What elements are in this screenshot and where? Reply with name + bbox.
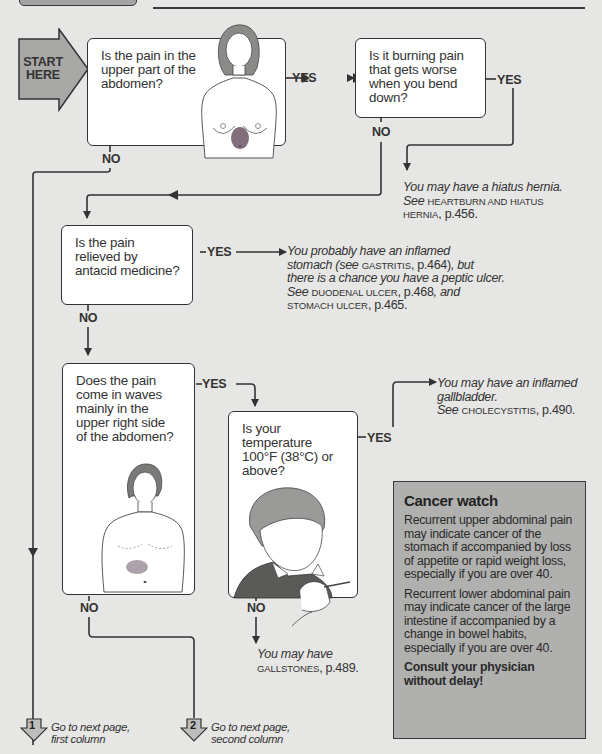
woman-figure-icon [195, 20, 285, 160]
continuation-1-text[interactable]: Go to next page, first column [51, 721, 130, 745]
cancer-watch-warning: Consult your physician without delay! [404, 661, 577, 688]
cancer-watch-para-upper: Recurrent upper abdominal pain may indic… [404, 514, 577, 582]
q3-no-label: NO [79, 311, 97, 325]
q1-no-label: NO [102, 152, 120, 166]
result-gallstones: You may have GALLSTONES, p.489. [257, 648, 377, 675]
q4-yes-label: YES [202, 377, 226, 391]
result-hiatus-hernia: You may have a hiatus hernia. See HEARTB… [403, 181, 602, 222]
question-antacid: Is the pain relieved by antacid medicine… [61, 225, 193, 305]
result-inflamed-gallbladder: You may have an inflamed gallbladder. Se… [437, 377, 602, 418]
q3-yes-label: YES [207, 245, 231, 259]
q2-yes-label: YES [497, 73, 521, 87]
down-arrowhead [28, 548, 38, 557]
q1-yes-label: YES [292, 71, 316, 85]
cancer-watch-box: Cancer watch Recurrent upper abdominal p… [393, 481, 586, 739]
continuation-2-text[interactable]: Go to next page, second column [211, 721, 290, 745]
q5-no-label: NO [247, 601, 265, 615]
start-here-label: START HERE [18, 56, 68, 82]
result-inflamed-stomach: You probably have an inflamed stomach (s… [287, 245, 602, 313]
cancer-watch-title: Cancer watch [404, 492, 577, 509]
question-burning-pain: Is it burning pain that gets worse when … [355, 38, 486, 118]
q5-yes-label: YES [367, 431, 391, 445]
cancer-watch-para-lower: Recurrent lower abdominal pain may indic… [404, 588, 577, 656]
continuation-2-number: 2 [190, 719, 196, 731]
q2-no-label: NO [372, 125, 390, 139]
man-figure-icon [96, 460, 188, 596]
q4-no-label: NO [80, 601, 98, 615]
left-arrowhead [168, 190, 178, 200]
continuation-1-number: 1 [29, 719, 35, 731]
